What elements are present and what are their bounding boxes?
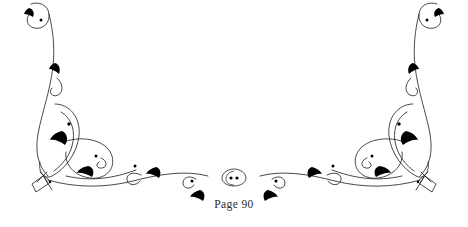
page-number-label: Page 90: [0, 198, 468, 210]
dot-ribbon-left: [49, 181, 52, 184]
ornament-right-half: [260, 3, 444, 201]
oval-inner-spiral-left: [97, 158, 106, 168]
inner-baseline-curl-right: [272, 177, 285, 188]
main-descending-stem-right: [414, 14, 431, 176]
dot-teardrop-left: [67, 122, 70, 125]
dot-ribbon-right: [417, 181, 420, 184]
leaf-accents-right: [264, 8, 444, 201]
dot-oval-left: [95, 155, 98, 158]
leaf-top-terminal-right: [434, 8, 444, 17]
leaf-stem-upper-left: [49, 63, 60, 74]
dot-accents-left: [40, 19, 194, 184]
top-terminal-curl-right: [419, 3, 441, 28]
center-almond-outline: [222, 169, 246, 186]
dot-terminal-left: [40, 19, 43, 22]
inner-curl-upper-left: [50, 78, 62, 96]
dot-center-left: [191, 180, 194, 183]
center-almond-motif: [222, 169, 246, 186]
dot-accents-right: [275, 19, 429, 184]
leaf-teardrop-right: [401, 131, 418, 145]
floral-flourish-ornament: [0, 0, 468, 227]
center-dot-right: [235, 176, 238, 179]
inner-curl-upper-right: [406, 78, 418, 96]
leaf-top-terminal-left: [24, 8, 34, 17]
center-dot-left: [229, 176, 232, 179]
dot-terminal-right: [426, 19, 429, 22]
leaf-accents-left: [24, 8, 204, 201]
ornament-left-half: [24, 3, 208, 201]
dot-oval-right: [371, 155, 374, 158]
mid-baseline-curl-left: [127, 173, 141, 184]
inner-baseline-curl-left: [183, 177, 196, 188]
top-terminal-curl-left: [27, 3, 49, 28]
mid-baseline-curl-right: [327, 173, 341, 184]
dot-center-right: [275, 180, 278, 183]
ornamental-page: Page 90: [0, 0, 468, 227]
dot-baseline-left: [134, 165, 137, 168]
dot-teardrop-right: [397, 122, 400, 125]
oval-inner-spiral-right: [362, 158, 371, 168]
dot-baseline-right: [332, 165, 335, 168]
main-descending-stem-left: [37, 14, 54, 176]
leaf-teardrop-left: [50, 131, 67, 145]
leaf-stem-upper-right: [408, 63, 419, 74]
